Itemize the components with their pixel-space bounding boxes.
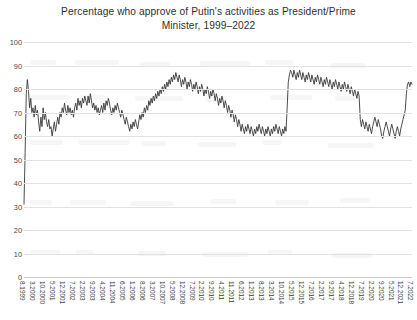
x-axis-tick-label: 4.2018 bbox=[338, 281, 345, 301]
gridline bbox=[24, 254, 412, 255]
gridline bbox=[24, 160, 412, 161]
gridline bbox=[24, 66, 412, 67]
x-axis-tick-label: 1.2006 bbox=[129, 281, 136, 301]
gridline bbox=[24, 89, 412, 90]
x-axis-tick-label: 8.2013 bbox=[258, 281, 265, 301]
y-axis-tick-label: 70 bbox=[0, 108, 22, 117]
x-axis-tick-label: 5.2001 bbox=[49, 281, 56, 301]
x-axis-tick-label: 3.2000 bbox=[29, 281, 36, 301]
x-axis-tick-label: 11.2011 bbox=[228, 281, 235, 303]
x-axis-tick-label: 7.2016 bbox=[308, 281, 315, 301]
x-axis-tick-label: 10.2014 bbox=[278, 281, 285, 304]
x-axis-tick-label: 10.2007 bbox=[159, 281, 166, 304]
gridline bbox=[24, 183, 412, 184]
plot-area bbox=[24, 42, 412, 277]
x-axis-tick-label: 5.2015 bbox=[288, 281, 295, 301]
x-axis-tick-label: 12.2008 bbox=[179, 281, 186, 304]
y-axis-tick-label: 50 bbox=[0, 155, 22, 164]
x-axis-tick-label: 7.2019 bbox=[358, 281, 365, 301]
y-axis-tick-label: 10 bbox=[0, 249, 22, 258]
x-axis-tick-label: 6.2005 bbox=[119, 281, 126, 301]
y-axis-tick-label: 90 bbox=[0, 61, 22, 70]
gridline bbox=[24, 230, 412, 231]
x-axis-tick-label: 4.2004 bbox=[99, 281, 106, 301]
gridline bbox=[24, 136, 412, 137]
x-axis-tick-label: 12.2001 bbox=[59, 281, 66, 304]
x-axis-tick-label: 5.2008 bbox=[169, 281, 176, 301]
x-axis-tick-label: 1.2013 bbox=[248, 281, 255, 301]
chart-title-line-1: Percentage who approve of Putin's activi… bbox=[0, 5, 417, 19]
x-axis-tick-label: 9.2020 bbox=[378, 281, 385, 301]
x-axis-tick-label: 2.2017 bbox=[318, 281, 325, 301]
x-axis-tick-label: 7.2022 bbox=[407, 281, 414, 301]
y-axis-tick-label: 80 bbox=[0, 85, 22, 94]
y-axis-tick-label: 60 bbox=[0, 132, 22, 141]
x-axis-tick-label: 5.2021 bbox=[388, 281, 395, 301]
x-axis-tick-label: 2.2003 bbox=[79, 281, 86, 301]
gridline bbox=[24, 207, 412, 208]
x-axis-tick-label: 3.2007 bbox=[149, 281, 156, 301]
x-axis-tick-label: 6.2012 bbox=[238, 281, 245, 301]
y-axis-tick-label: 100 bbox=[0, 38, 22, 47]
x-axis-tick-label: 4.2011 bbox=[218, 281, 225, 300]
x-axis-tick-label: 8.2006 bbox=[139, 281, 146, 301]
x-axis-tick-label: 9.2017 bbox=[328, 281, 335, 301]
x-axis-tick-label: 12.2021 bbox=[397, 281, 404, 304]
x-axis-tick-label: 10.2000 bbox=[39, 281, 46, 304]
x-axis-tick-label: 12.2018 bbox=[348, 281, 355, 304]
x-axis-tick-label: 9.2003 bbox=[89, 281, 96, 301]
x-axis-tick-label: 11.2004 bbox=[109, 281, 116, 304]
x-axis-tick-label: 3.2014 bbox=[268, 281, 275, 301]
x-axis-tick-label: 12.2015 bbox=[298, 281, 305, 304]
x-axis-tick-label: 2.2010 bbox=[198, 281, 205, 301]
x-axis-tick-label: 2.2020 bbox=[368, 281, 375, 301]
chart-title: Percentage who approve of Putin's activi… bbox=[0, 5, 417, 33]
chart-title-line-2: Minister, 1999–2022 bbox=[0, 19, 417, 33]
x-axis-tick-label: 7.2009 bbox=[189, 281, 196, 301]
x-axis-tick-label: 9.2010 bbox=[208, 281, 215, 301]
x-axis-tick-label: 7.2002 bbox=[69, 281, 76, 301]
gridline bbox=[24, 113, 412, 114]
gridline bbox=[24, 42, 412, 43]
chart-container: Percentage who approve of Putin's activi… bbox=[0, 0, 417, 320]
y-axis-tick-label: 30 bbox=[0, 202, 22, 211]
x-axis-line bbox=[24, 277, 412, 278]
x-axis-tick-label: 8.1999 bbox=[19, 281, 26, 301]
y-axis-tick-label: 40 bbox=[0, 179, 22, 188]
y-axis-tick-label: 20 bbox=[0, 226, 22, 235]
